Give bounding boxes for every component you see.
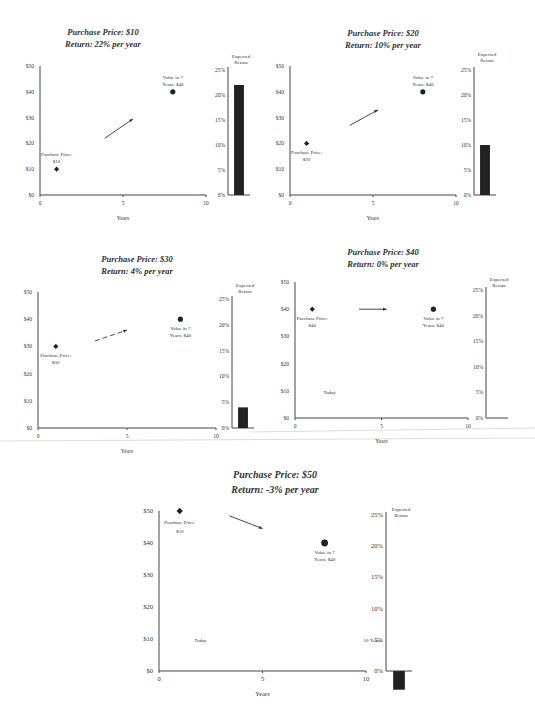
y-tick-label: $10	[26, 166, 35, 172]
purchase-price-marker	[304, 141, 309, 146]
purchase-price-marker	[53, 344, 58, 349]
chart-panel-5: Purchase Price: $50Return: -3% per year$…	[143, 469, 412, 697]
y-tick-label: $10	[276, 166, 285, 172]
point-label: Purchase Price:	[164, 520, 195, 525]
point-label: $30	[52, 360, 60, 365]
future-value-marker	[178, 317, 183, 322]
bar-y-tick-label: 10%	[473, 364, 484, 370]
bar-y-tick-label: 15%	[461, 117, 472, 123]
future-value-marker	[321, 540, 328, 547]
x-tick-label: 0	[39, 200, 42, 206]
x-tick-label: 0	[294, 423, 297, 429]
purchase-price-marker	[54, 167, 59, 172]
future-value-marker	[170, 89, 175, 94]
point-label: Value in 7	[423, 316, 444, 321]
bar-title: Expected	[236, 283, 255, 288]
bar-y-tick-label: 0%	[374, 667, 383, 674]
bar-y-tick-label: 0%	[476, 415, 484, 421]
y-tick-label: $40	[24, 316, 33, 322]
point-label: Years: $40	[162, 82, 184, 87]
chart-subtitle: Return: 0% per year	[346, 259, 419, 269]
chart-panel-4: Purchase Price: $40Return: 0% per year$0…	[281, 247, 509, 444]
y-tick-label: $20	[24, 371, 33, 377]
x-axis-label: Years	[375, 438, 387, 444]
trend-arrow	[105, 119, 133, 138]
x-tick-label: 5	[372, 200, 375, 206]
y-tick-label: $30	[24, 343, 33, 349]
bar-y-tick-label: 0%	[222, 425, 230, 431]
bar-y-tick-label: 15%	[371, 573, 384, 580]
bar-y-tick-label: 25%	[215, 67, 226, 73]
y-tick-label: $50	[143, 507, 153, 514]
chart-title: Purchase Price: $20	[347, 28, 419, 38]
arrow-head	[123, 330, 127, 333]
point-label: Purchase Price:	[41, 152, 72, 157]
x-axis-label: Years	[367, 215, 379, 221]
y-tick-label: $0	[147, 667, 154, 674]
chart-title: Purchase Price: $10	[67, 27, 139, 37]
arrow-head	[129, 119, 133, 122]
bar-title: Expected	[478, 52, 497, 57]
x-axis-label: Years	[121, 448, 133, 454]
y-tick-label: $0	[29, 192, 35, 198]
x-tick-label: 0	[157, 675, 160, 682]
x-tick-label: 10	[203, 200, 209, 206]
chart-title: Purchase Price: $30	[101, 254, 173, 264]
future-value-marker	[431, 307, 436, 312]
bar-y-tick-label: 5%	[218, 167, 226, 173]
bar-y-tick-label: 25%	[371, 511, 384, 518]
trend-arrow	[350, 110, 378, 125]
point-label: Years: $40	[314, 557, 336, 562]
y-tick-label: $20	[281, 361, 290, 367]
bar-y-tick-label: 20%	[219, 322, 230, 328]
y-tick-label: $10	[281, 388, 290, 394]
x-tick-label: 5	[380, 423, 383, 429]
y-tick-label: $10	[24, 398, 33, 404]
bar-y-tick-label: 15%	[473, 338, 484, 344]
bar-title: Return	[234, 60, 248, 65]
y-tick-label: $50	[26, 63, 35, 69]
expected-return-bar	[234, 85, 244, 195]
bar-title: Expected	[490, 277, 509, 282]
y-tick-label: $20	[276, 140, 285, 146]
bar-title: Return	[480, 58, 494, 63]
bar-y-tick-label: 20%	[461, 92, 472, 98]
y-tick-label: $50	[276, 63, 285, 69]
expected-return-bar	[238, 407, 248, 428]
chart-panel-3: Purchase Price: $30Return: 4% per year$0…	[24, 254, 255, 454]
point-label: Value in 7	[163, 75, 184, 80]
annotation-label: Today	[194, 638, 207, 643]
bar-y-tick-label: 20%	[473, 313, 484, 319]
purchase-price-marker	[310, 307, 315, 312]
y-tick-label: $30	[276, 115, 285, 121]
bar-y-tick-label: 25%	[219, 296, 230, 302]
point-label: Years: $40	[412, 82, 434, 87]
y-tick-label: $50	[24, 289, 33, 295]
chart-title: Purchase Price: $40	[347, 247, 419, 257]
bar-y-tick-label: 10%	[219, 373, 230, 379]
y-tick-label: $30	[281, 333, 290, 339]
bar-y-tick-label: 0%	[464, 192, 472, 198]
y-tick-label: $50	[281, 279, 290, 285]
bar-y-tick-label: 10%	[215, 142, 226, 148]
chart-canvas: Purchase Price: $10Return: 22% per year$…	[0, 0, 535, 719]
point-label: Years: $40	[423, 323, 445, 328]
future-value-marker	[420, 89, 425, 94]
bar-y-tick-label: 10%	[371, 605, 384, 612]
point-label: $10	[53, 159, 61, 164]
purchase-price-marker	[177, 508, 183, 514]
bar-title: Expected	[392, 507, 411, 512]
y-tick-label: $10	[143, 635, 153, 642]
chart-panel-2: Purchase Price: $20Return: 10% per year$…	[276, 28, 497, 221]
x-tick-label: 10	[465, 423, 471, 429]
chart-panel-1: Purchase Price: $10Return: 22% per year$…	[26, 27, 251, 221]
bar-title: Expected	[232, 54, 251, 59]
arrow-head	[383, 308, 387, 311]
chart-subtitle: Return: -3% per year	[230, 484, 319, 495]
y-tick-label: $30	[143, 571, 153, 578]
bar-y-tick-label: 10%	[461, 142, 472, 148]
bar-y-tick-label: 5%	[222, 399, 230, 405]
bar-y-tick-label: 15%	[219, 348, 230, 354]
x-tick-label: 10	[363, 675, 370, 682]
y-tick-label: $20	[26, 140, 35, 146]
